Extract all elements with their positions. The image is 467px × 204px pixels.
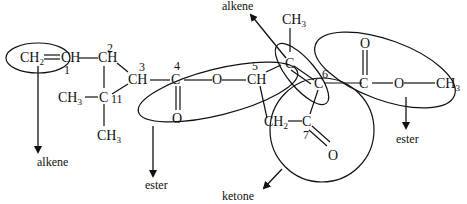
atom-o-ester2: O bbox=[394, 76, 404, 91]
molecule-diagram: CH2 CH CH CH C O O CH CH3 C C C O O CH3 … bbox=[0, 0, 467, 204]
atom-ch2-terminal: CH2 bbox=[20, 50, 44, 67]
ester-right-outline bbox=[305, 16, 465, 123]
atom-ch3-ester2: CH3 bbox=[436, 76, 460, 93]
atom-ch3-top: CH3 bbox=[282, 12, 306, 29]
atom-o-ester1: O bbox=[212, 72, 222, 87]
label-ketone: ketone bbox=[222, 189, 254, 203]
number-5: 5 bbox=[252, 59, 258, 73]
atom-ch2-ring: CH2 bbox=[264, 114, 288, 131]
atom-o-carbonyl-ester2: O bbox=[360, 36, 370, 51]
atom-ch-5: CH bbox=[247, 72, 266, 87]
arrow-alkene-top bbox=[251, 15, 286, 58]
label-ester-right: ester bbox=[396, 132, 419, 146]
number-11: 11 bbox=[111, 92, 123, 106]
atom-o-carbonyl-4: O bbox=[172, 111, 182, 126]
label-alkene-top: alkene bbox=[222, 0, 253, 13]
label-ester-left: ester bbox=[145, 178, 168, 192]
number-4: 4 bbox=[174, 59, 180, 73]
atom-ch-3: CH bbox=[128, 72, 147, 87]
number-2: 2 bbox=[107, 41, 113, 55]
label-alkene-left: alkene bbox=[37, 155, 68, 169]
number-7: 7 bbox=[303, 128, 309, 142]
arrow-ketone bbox=[264, 169, 282, 188]
atom-o-7: O bbox=[328, 148, 338, 163]
atom-c-ester2: C bbox=[359, 76, 368, 91]
atoms: CH2 CH CH CH C O O CH CH3 C C C O O CH3 … bbox=[20, 12, 460, 163]
atom-c-4: C bbox=[171, 72, 180, 87]
atom-c-11: C bbox=[99, 90, 108, 105]
atom-ch3-bottom: CH3 bbox=[97, 128, 121, 145]
group-labels: alkene ester alkene ester ketone bbox=[37, 0, 419, 203]
atom-ch3-left: CH3 bbox=[58, 90, 82, 107]
atom-c-7: C bbox=[302, 114, 311, 129]
label-arrows bbox=[38, 15, 406, 188]
number-3: 3 bbox=[139, 60, 145, 74]
